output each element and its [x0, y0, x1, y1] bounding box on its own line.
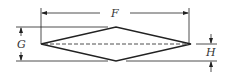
label-f: F: [110, 7, 119, 20]
label-h: H: [205, 46, 216, 59]
dimension-g: G: [17, 28, 26, 60]
diamond-dimension-diagram: F G H: [0, 0, 230, 76]
dimension-h: H: [205, 34, 216, 72]
label-g: G: [17, 38, 26, 51]
